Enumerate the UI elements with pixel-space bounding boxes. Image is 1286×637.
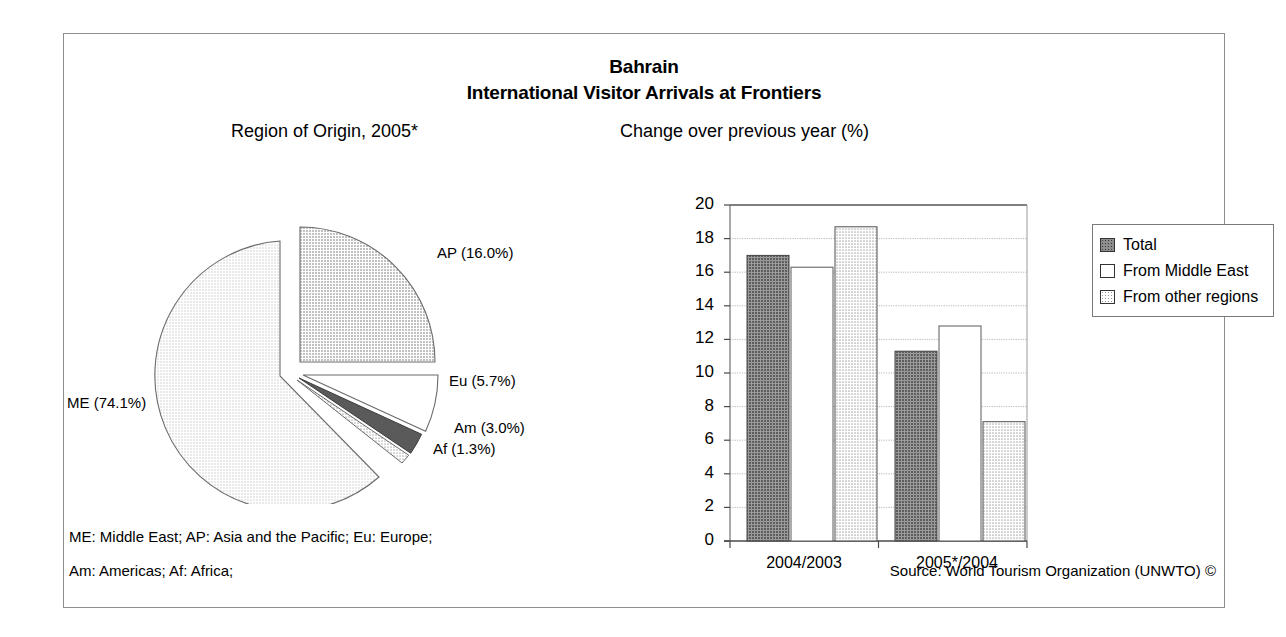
bar-total-2004 [747, 255, 789, 541]
pie-chart-svg [64, 144, 624, 504]
y-tick-2: 2 [686, 497, 714, 514]
page-subtitle: International Visitor Arrivals at Fronti… [64, 82, 1224, 104]
legend-swatch-other-regions-icon [1100, 290, 1115, 304]
y-tick-marks [724, 205, 730, 541]
legend-item-other-regions: From other regions [1100, 284, 1273, 310]
bar-chart-title: Change over previous year (%) [620, 121, 869, 142]
bar-other-regions-2005 [983, 422, 1025, 541]
pie-slice-ap [300, 227, 435, 362]
bar-total-2005 [895, 351, 937, 541]
legend-label-total: Total [1123, 236, 1157, 254]
page-title: Bahrain [64, 56, 1224, 78]
legend-item-total: Total [1100, 232, 1273, 258]
legend-swatch-total-icon [1100, 238, 1115, 252]
bar-chart-legend: Total From Middle East From other region… [1092, 224, 1274, 317]
y-tick-4: 4 [686, 464, 714, 481]
pie-label-af: Af (1.3%) [433, 440, 496, 457]
y-tick-12: 12 [686, 329, 714, 346]
y-tick-20: 20 [686, 195, 714, 212]
bar-other-regions-2004 [835, 227, 877, 541]
y-tick-8: 8 [686, 397, 714, 414]
pie-label-me: ME (74.1%) [67, 394, 146, 411]
pie-label-eu: Eu (5.7%) [449, 372, 516, 389]
figure-frame: Bahrain International Visitor Arrivals a… [63, 33, 1225, 608]
y-tick-10: 10 [686, 363, 714, 380]
pie-chart: ME (74.1%) AP (16.0%) Eu (5.7%) Am (3.0%… [64, 144, 624, 504]
source-note: Source: World Tourism Organization (UNWT… [890, 562, 1216, 579]
y-tick-16: 16 [686, 262, 714, 279]
y-tick-14: 14 [686, 296, 714, 313]
y-tick-0: 0 [686, 531, 714, 548]
pie-chart-title: Region of Origin, 2005* [231, 121, 418, 142]
footnote-region-abbreviations-line1: ME: Middle East; AP: Asia and the Pacifi… [69, 528, 433, 545]
bar-chart: 20 18 16 14 12 10 8 6 4 2 0 2004/2003 20… [644, 144, 1204, 564]
y-tick-6: 6 [686, 430, 714, 447]
pie-label-am: Am (3.0%) [454, 419, 525, 436]
bar-middle-east-2004 [791, 267, 833, 541]
legend-swatch-middle-east-icon [1100, 264, 1115, 278]
y-tick-18: 18 [686, 229, 714, 246]
pie-label-ap: AP (16.0%) [437, 244, 513, 261]
legend-label-middle-east: From Middle East [1123, 262, 1248, 280]
legend-item-middle-east: From Middle East [1100, 258, 1273, 284]
x-tick-2004-2003: 2004/2003 [754, 554, 854, 572]
x-tick-marks [730, 541, 1027, 548]
legend-label-other-regions: From other regions [1123, 288, 1258, 306]
bar-middle-east-2005 [939, 326, 981, 541]
footnote-region-abbreviations-line2: Am: Americas; Af: Africa; [69, 562, 233, 579]
